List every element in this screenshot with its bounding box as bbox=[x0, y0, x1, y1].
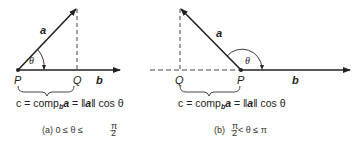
point-q-label: Q bbox=[73, 74, 82, 86]
vector-b-label: b bbox=[292, 74, 299, 86]
angle-theta-label: θ bbox=[29, 55, 34, 66]
vector-projection-figure: θ a P Q b c = compba = ‖a‖ cos θ (a) 0 ≤… bbox=[0, 0, 356, 145]
component-formula: c = compba = ‖a‖ cos θ bbox=[178, 97, 286, 110]
panel-a-caption-frac-den: 2 bbox=[111, 128, 116, 138]
component-brace bbox=[180, 86, 240, 96]
point-p-label: P bbox=[14, 74, 22, 86]
angle-arc-arrowhead bbox=[260, 65, 264, 70]
panel-b-caption-suffix: < θ ≤ π bbox=[238, 125, 267, 135]
vector-a-label: a bbox=[216, 27, 222, 39]
point-q-label: Q bbox=[175, 74, 184, 86]
panel-a: θ a P Q b c = compba = ‖a‖ cos θ (a) 0 ≤… bbox=[14, 9, 124, 138]
point-p-dot bbox=[239, 68, 243, 72]
component-brace bbox=[18, 86, 74, 96]
panel-a-caption: (a) 0 ≤ θ ≤ bbox=[42, 125, 83, 135]
point-p-label: P bbox=[237, 74, 245, 86]
angle-arc-arrowhead bbox=[42, 65, 46, 70]
panel-b-caption-frac-den: 2 bbox=[232, 128, 237, 138]
vector-a-label: a bbox=[40, 24, 46, 36]
vector-b-label: b bbox=[96, 74, 103, 86]
panel-b-caption-prefix: (b) bbox=[214, 125, 225, 135]
point-p-dot bbox=[16, 68, 20, 72]
panel-b: θ a Q P b c = compba = ‖a‖ cos θ (b) π 2… bbox=[150, 9, 350, 138]
angle-theta-label: θ bbox=[245, 55, 250, 66]
vector-a-arrow bbox=[18, 9, 76, 70]
vector-a-arrow bbox=[181, 9, 241, 70]
component-formula: c = compba = ‖a‖ cos θ bbox=[16, 97, 124, 110]
